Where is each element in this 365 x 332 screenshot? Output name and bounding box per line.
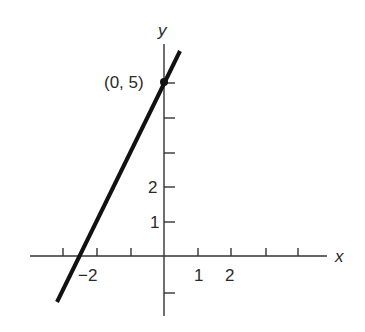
point-marker: [160, 78, 168, 86]
tick-label-x-2: 2: [225, 266, 234, 285]
point-label: (0, 5): [104, 73, 144, 92]
tick-label-x-neg2: −2: [78, 266, 97, 285]
tick-label-x-1: 1: [194, 266, 203, 285]
tick-label-y-1: 1: [150, 213, 159, 232]
y-axis-label: y: [157, 21, 168, 40]
chart: (0, 5) y x −2 1 2 1 2: [0, 0, 365, 332]
x-ticks: [63, 248, 298, 256]
y-ticks: [164, 83, 175, 293]
tick-label-y-2: 2: [148, 178, 157, 197]
x-axis-label: x: [334, 247, 344, 266]
